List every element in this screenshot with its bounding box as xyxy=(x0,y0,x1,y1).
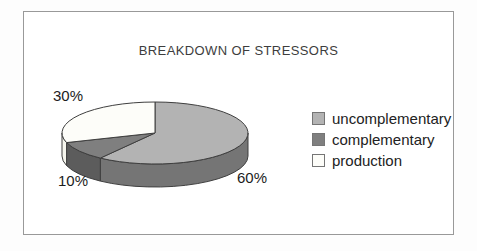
slice-label-production: 30% xyxy=(53,87,83,105)
legend-label-production: production xyxy=(332,152,402,169)
slice-label-uncomplementary: 60% xyxy=(237,169,267,187)
legend-item-uncomplementary: uncomplementary xyxy=(312,108,451,129)
legend-label-complementary: complementary xyxy=(332,131,435,148)
legend-item-production: production xyxy=(312,150,451,171)
legend-swatch-complementary xyxy=(312,133,325,146)
legend-item-complementary: complementary xyxy=(312,129,451,150)
slice-label-complementary: 10% xyxy=(58,172,88,190)
legend-label-uncomplementary: uncomplementary xyxy=(332,110,451,127)
chart-canvas: BREAKDOWN OF STRESSORS 30% 10% 60% uncom… xyxy=(0,0,477,251)
legend-swatch-production xyxy=(312,154,325,167)
legend: uncomplementary complementary production xyxy=(312,108,451,171)
legend-swatch-uncomplementary xyxy=(312,112,325,125)
